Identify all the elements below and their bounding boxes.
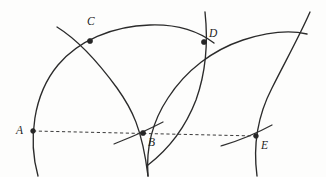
arc-centered-at-a xyxy=(57,27,148,176)
arc-through-d-to-b xyxy=(148,12,206,165)
arc-centered-at-b xyxy=(33,25,214,176)
point-label-d: D xyxy=(209,28,217,40)
point-label-b: B xyxy=(148,137,155,149)
point-c-dot xyxy=(87,38,92,43)
arc-through-b-and-d xyxy=(148,32,307,176)
point-label-e: E xyxy=(261,140,268,152)
point-label-c: C xyxy=(87,16,95,28)
point-d-dot xyxy=(201,39,206,44)
point-label-a: A xyxy=(16,125,23,137)
point-b-dot xyxy=(140,130,145,135)
geometry-figure: A B C D E xyxy=(0,0,326,177)
point-a-dot xyxy=(31,129,36,134)
construction-canvas xyxy=(0,0,326,177)
point-e-dot xyxy=(254,134,259,139)
